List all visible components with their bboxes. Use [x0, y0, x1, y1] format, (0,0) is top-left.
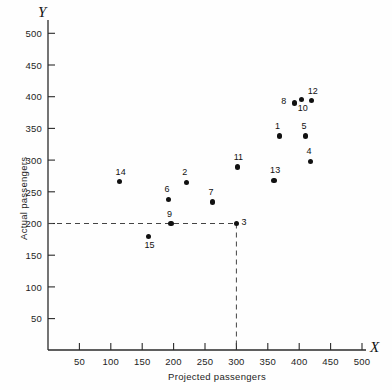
data-point-label-2: 2	[182, 167, 187, 177]
data-point-7	[210, 199, 215, 204]
data-point-2	[184, 180, 189, 185]
data-point-label-3: 3	[241, 217, 246, 227]
data-point-15	[146, 234, 151, 239]
data-point-label-15: 15	[144, 240, 154, 250]
data-point-label-13: 13	[270, 165, 280, 175]
data-point-8	[292, 100, 297, 105]
data-point-label-4: 4	[307, 146, 312, 156]
data-point-10	[299, 97, 304, 102]
data-points-layer: 123456789101112131415	[0, 0, 392, 390]
data-point-label-11: 11	[234, 152, 244, 162]
data-point-label-1: 1	[275, 121, 280, 131]
data-point-13	[271, 178, 276, 183]
data-point-6	[166, 197, 171, 202]
data-point-label-8: 8	[281, 96, 286, 106]
scatter-plot-figure: Y X Actual passengers Projected passenge…	[0, 0, 392, 390]
data-point-5	[303, 133, 308, 138]
data-point-label-7: 7	[209, 187, 214, 197]
data-point-label-9: 9	[167, 209, 172, 219]
data-point-label-12: 12	[308, 86, 318, 96]
data-point-12	[309, 98, 314, 103]
data-point-9	[168, 221, 173, 226]
data-point-label-10: 10	[298, 103, 308, 113]
data-point-14	[117, 179, 122, 184]
data-point-3	[234, 221, 239, 226]
data-point-label-5: 5	[301, 121, 306, 131]
data-point-label-6: 6	[165, 184, 170, 194]
data-point-label-14: 14	[116, 167, 126, 177]
data-point-11	[235, 164, 240, 169]
data-point-1	[277, 133, 282, 138]
data-point-4	[308, 159, 313, 164]
